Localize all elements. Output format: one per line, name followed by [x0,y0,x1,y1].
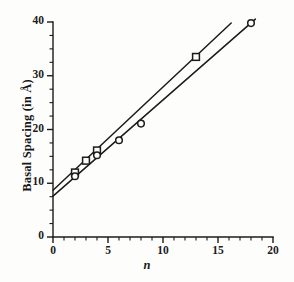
x-tick-label: 20 [258,244,288,256]
marker-circle [248,20,255,27]
marker-circle [94,152,101,159]
marker-circle [138,120,145,127]
axis-lines [53,22,273,237]
x-tick-label: 10 [148,244,178,256]
x-tick-label: 0 [38,244,68,256]
plot-svg [0,0,294,282]
marker-circle [116,137,123,144]
x-tick-label: 5 [93,244,123,256]
x-axis-label: n [0,258,294,273]
y-tick-label: 40 [14,14,44,26]
x-tick-label: 15 [203,244,233,256]
figure-canvas: Basal Spacing (in Å) n 010203040 0510152… [0,0,294,282]
y-tick-label: 10 [14,175,44,187]
x-axis-ticks [53,237,273,243]
y-axis-ticks [47,22,53,237]
y-tick-label: 0 [14,229,44,241]
fit-line-square [53,23,231,190]
y-tick-label: 30 [14,68,44,80]
marker-circle [72,173,79,180]
y-tick-label: 20 [14,122,44,134]
marker-square [193,54,200,61]
fit-lines [53,19,255,196]
marker-square [83,157,90,164]
fit-line-circle [53,19,255,196]
